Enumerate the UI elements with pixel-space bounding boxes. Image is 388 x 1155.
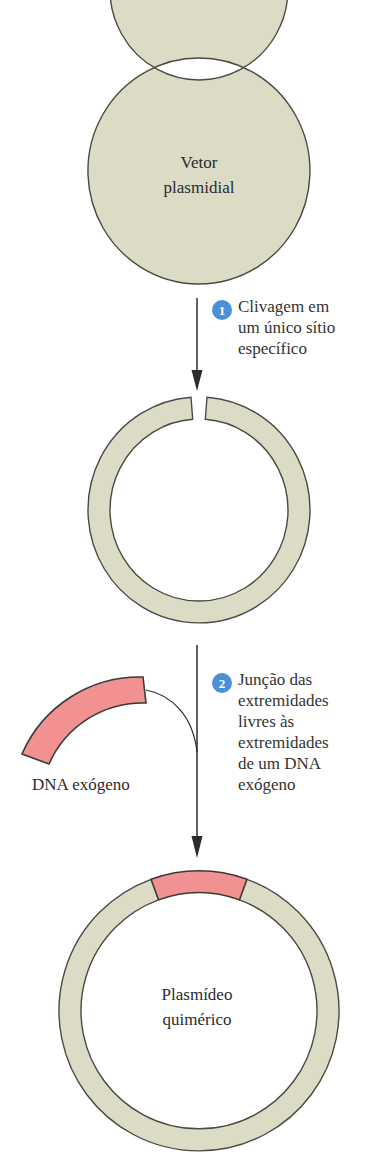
vector-plasmid-label-line1: Vetor: [181, 153, 218, 172]
exogenous-dna-fragment-group: [22, 677, 146, 764]
vector-plasmid-label-line2: plasmidial: [164, 178, 235, 197]
chimeric-plasmid-insert: [151, 871, 247, 900]
step-1-badge: 1: [212, 300, 232, 320]
plasmid-cloning-diagram: Vetor plasmidial 1 2 Plasmídeo quimérico: [0, 0, 388, 1155]
exogenous-dna-label: DNA exógeno: [32, 775, 130, 795]
step-2-number: 2: [219, 676, 226, 691]
step-2-badge: 2: [212, 673, 232, 693]
step-1-number: 1: [219, 303, 226, 318]
step-1-text: Clivagem em um único sítio específico: [238, 296, 335, 359]
chimeric-plasmid-group: Plasmídeo quimérico: [59, 871, 339, 1151]
arrow-step-1: [192, 298, 203, 391]
cut-plasmid-group: [88, 397, 310, 623]
step-2-text: Junção das extremidades livres às extrem…: [238, 669, 329, 795]
cut-plasmid-ring: [88, 397, 310, 623]
fragment-connector-line: [146, 690, 197, 752]
vector-plasmid-group: Vetor plasmidial: [88, 0, 310, 284]
chimeric-plasmid-label-line1: Plasmídeo: [162, 985, 233, 1004]
vector-plasmid-ring: [88, 0, 310, 284]
exogenous-dna-fragment: [22, 677, 146, 764]
chimeric-plasmid-label-line2: quimérico: [163, 1010, 232, 1029]
